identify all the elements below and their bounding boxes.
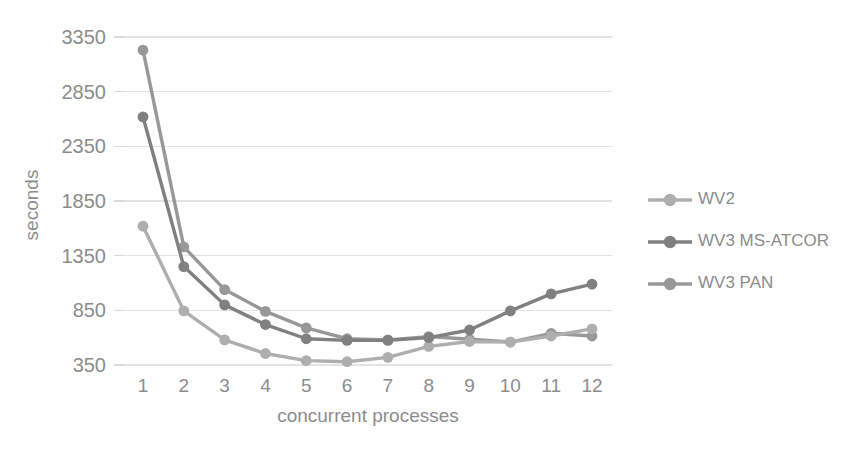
line-chart: 35085013501850235028503350 1234567891011… (0, 0, 861, 462)
data-point (342, 335, 353, 346)
x-axis-title: concurrent processes (277, 405, 459, 426)
data-point (138, 111, 149, 122)
data-point (219, 299, 230, 310)
legend-label: WV3 MS-ATCOR (698, 231, 829, 250)
data-point (260, 348, 271, 359)
y-axis-title: seconds (21, 170, 42, 241)
data-point (464, 325, 475, 336)
data-point (546, 289, 557, 300)
data-point (301, 355, 312, 366)
x-tick-label: 7 (383, 375, 394, 396)
legend-label: WV2 (698, 189, 735, 208)
x-tick-label: 5 (301, 375, 312, 396)
legend-marker-dot (664, 278, 676, 290)
y-tickmarks-group (114, 37, 124, 365)
x-tick-label: 4 (260, 375, 271, 396)
series-group (138, 45, 598, 367)
data-point (301, 322, 312, 333)
y-tick-label: 1350 (62, 245, 107, 267)
data-point (219, 334, 230, 345)
y-tick-label: 2350 (62, 135, 107, 157)
legend-marker-dot (664, 194, 676, 206)
x-axis-tick-labels: 123456789101112 (138, 375, 603, 396)
data-point (464, 336, 475, 347)
data-point (383, 352, 394, 363)
x-tick-label: 11 (541, 375, 561, 396)
data-point (587, 279, 598, 290)
x-tick-label: 10 (500, 375, 521, 396)
y-tick-label: 2850 (62, 81, 107, 103)
data-point (138, 221, 149, 232)
data-point (423, 332, 434, 343)
data-point (138, 45, 149, 56)
y-tick-label: 850 (73, 299, 106, 321)
legend-label: WV3 PAN (698, 273, 773, 292)
y-tick-label: 1850 (62, 190, 107, 212)
data-point (546, 331, 557, 342)
data-point (178, 305, 189, 316)
x-tick-label: 1 (138, 375, 149, 396)
data-point (505, 305, 516, 316)
legend-marker-dot (664, 236, 676, 248)
x-tick-label: 12 (581, 375, 602, 396)
x-tick-label: 3 (219, 375, 230, 396)
series-line (143, 50, 592, 342)
data-point (342, 356, 353, 367)
x-tick-label: 2 (179, 375, 190, 396)
x-tick-label: 9 (464, 375, 475, 396)
series-wv2 (138, 221, 598, 367)
data-point (219, 284, 230, 295)
data-point (505, 337, 516, 348)
data-point (260, 319, 271, 330)
x-tick-label: 8 (423, 375, 434, 396)
data-point (260, 306, 271, 317)
chart-legend: WV2WV3 MS-ATCORWV3 PAN (648, 189, 829, 292)
data-point (587, 324, 598, 335)
chart-canvas: 35085013501850235028503350 1234567891011… (0, 0, 861, 462)
data-point (383, 335, 394, 346)
y-tick-label: 3350 (62, 26, 107, 48)
gridlines-group (124, 37, 612, 365)
series-line (143, 117, 592, 341)
x-tick-label: 6 (342, 375, 353, 396)
data-point (301, 333, 312, 344)
y-tick-label: 350 (73, 354, 106, 376)
y-axis-tick-labels: 35085013501850235028503350 (62, 26, 107, 376)
data-point (178, 261, 189, 272)
